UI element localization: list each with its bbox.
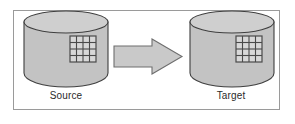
source-table-grid-icon	[70, 36, 96, 62]
diagram-svg	[0, 0, 295, 124]
source-cylinder-top	[24, 11, 108, 33]
source-label: Source	[24, 90, 108, 101]
figure-root: Source Target	[0, 0, 295, 124]
flow-arrow-icon	[114, 39, 182, 74]
target-cylinder-top	[190, 11, 274, 33]
target-cylinder	[190, 11, 274, 87]
target-table-grid-icon	[236, 36, 262, 62]
target-label: Target	[190, 90, 272, 101]
source-cylinder	[24, 11, 108, 87]
diagram-canvas	[0, 0, 295, 124]
